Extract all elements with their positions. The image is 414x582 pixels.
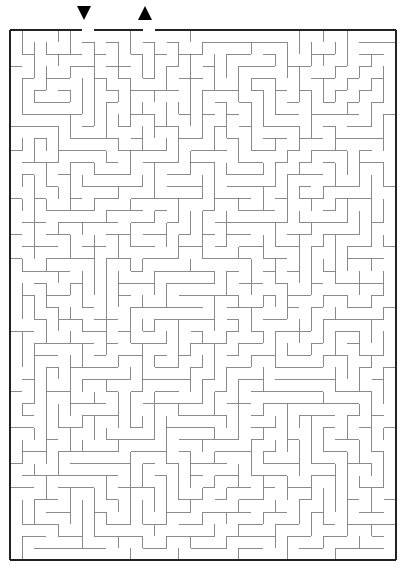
maze-figure bbox=[0, 0, 414, 582]
page-background bbox=[0, 0, 414, 582]
maze-canvas bbox=[0, 0, 414, 582]
maze-page bbox=[0, 0, 414, 582]
